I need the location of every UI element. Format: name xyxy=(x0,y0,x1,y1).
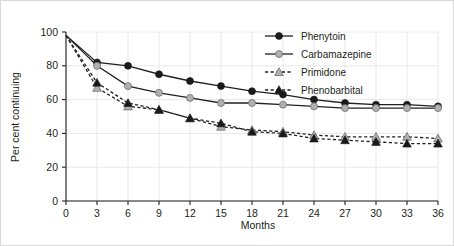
x-tick-label: 36 xyxy=(432,207,444,219)
chart-legend: PhenytoinCarbamazepinePrimidonePhenobarb… xyxy=(265,31,372,96)
x-tick-label: 21 xyxy=(277,207,289,219)
data-point xyxy=(249,88,256,95)
data-point xyxy=(435,105,442,112)
x-tick-label: 12 xyxy=(184,207,196,219)
legend-label: Phenobarbital xyxy=(301,85,363,96)
y-tick-label: 40 xyxy=(46,127,58,139)
legend-item-primidone: Primidone xyxy=(265,67,346,78)
data-series xyxy=(66,35,442,147)
y-axis-title: Per cent continuing xyxy=(9,72,21,162)
y-tick-label: 60 xyxy=(46,93,58,105)
data-point xyxy=(249,99,256,106)
data-point xyxy=(218,99,225,106)
data-point xyxy=(311,96,318,103)
y-tick-label: 20 xyxy=(46,161,58,173)
legend-marker-sample xyxy=(276,33,283,40)
x-tick-label: 9 xyxy=(156,207,162,219)
x-tick-label: 24 xyxy=(308,207,320,219)
y-tick-label: 0 xyxy=(52,195,58,207)
x-tick-label: 6 xyxy=(125,207,131,219)
data-point xyxy=(94,62,101,69)
legend-label: Phenytoin xyxy=(301,31,345,42)
series-markers-phenytoin xyxy=(94,59,442,110)
survival-curve-chart: 020406080100 0369121518212427303336 Phen… xyxy=(1,1,454,246)
data-point xyxy=(218,83,225,90)
data-point xyxy=(93,78,102,86)
x-tick-label: 27 xyxy=(339,207,351,219)
y-tick-label: 80 xyxy=(46,59,58,71)
data-point xyxy=(156,71,163,78)
data-point xyxy=(280,101,287,108)
data-point xyxy=(125,62,132,69)
data-point xyxy=(404,105,411,112)
x-axis-title: Months xyxy=(241,219,275,231)
data-point xyxy=(373,105,380,112)
data-point xyxy=(187,78,194,85)
data-point xyxy=(156,89,163,96)
x-tick-label: 15 xyxy=(215,207,227,219)
legend-label: Primidone xyxy=(301,67,346,78)
gridlines xyxy=(66,32,438,201)
x-tick-label: 30 xyxy=(370,207,382,219)
data-point xyxy=(311,103,318,110)
data-point xyxy=(187,94,194,101)
x-tick-label: 3 xyxy=(94,207,100,219)
x-tick-label: 18 xyxy=(246,207,258,219)
data-point xyxy=(342,105,349,112)
data-point xyxy=(125,83,132,90)
chart-figure: 020406080100 0369121518212427303336 Phen… xyxy=(0,0,454,246)
y-axis-tick-labels: 020406080100 xyxy=(40,26,58,207)
x-tick-label: 0 xyxy=(63,207,69,219)
x-axis-tick-labels: 0369121518212427303336 xyxy=(63,207,444,219)
y-tick-label: 100 xyxy=(40,26,58,38)
legend-marker-sample xyxy=(276,51,283,58)
series-markers-phenobarbital xyxy=(93,78,443,147)
legend-item-carbamazepine: Carbamazepine xyxy=(265,49,372,60)
tick-marks xyxy=(62,32,438,205)
legend-label: Carbamazepine xyxy=(301,49,372,60)
x-tick-label: 33 xyxy=(401,207,413,219)
